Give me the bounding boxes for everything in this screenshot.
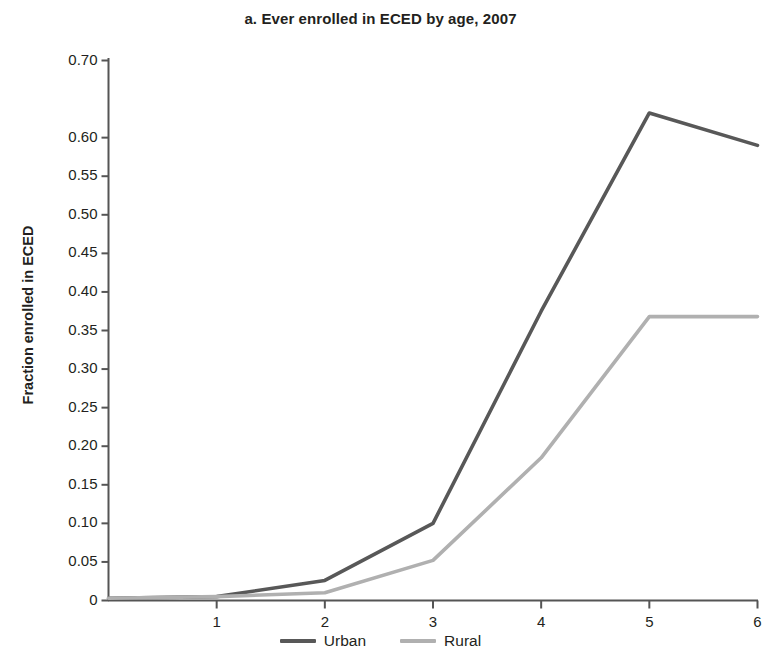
x-tick-label: 3 xyxy=(413,613,453,630)
y-tick-label: 0.15 xyxy=(40,475,98,492)
y-tick-marks xyxy=(102,61,109,601)
x-tick-label: 5 xyxy=(629,613,669,630)
x-tick-label: 4 xyxy=(521,613,561,630)
legend-swatch-urban xyxy=(280,639,316,643)
legend-item-urban: Urban xyxy=(280,632,366,650)
y-tick-label: 0.55 xyxy=(40,166,98,183)
series-line-rural xyxy=(109,317,758,599)
legend-label: Urban xyxy=(324,632,366,650)
y-tick-label: 0.45 xyxy=(40,243,98,260)
chart-legend: UrbanRural xyxy=(0,632,761,650)
x-tick-marks xyxy=(217,601,758,609)
axis-lines xyxy=(108,58,758,601)
y-tick-label: 0.35 xyxy=(40,321,98,338)
y-tick-label: 0.30 xyxy=(40,359,98,376)
y-tick-label: 0.70 xyxy=(40,51,98,68)
legend-label: Rural xyxy=(444,632,481,650)
series-line-urban xyxy=(109,113,758,598)
y-tick-label: 0.05 xyxy=(40,552,98,569)
y-tick-label: 0 xyxy=(40,591,98,608)
x-tick-label: 1 xyxy=(197,613,237,630)
y-tick-label: 0.50 xyxy=(40,205,98,222)
y-tick-label: 0.60 xyxy=(40,128,98,145)
series-lines xyxy=(109,113,758,598)
y-tick-label: 0.20 xyxy=(40,436,98,453)
y-tick-label: 0.40 xyxy=(40,282,98,299)
y-tick-label: 0.25 xyxy=(40,398,98,415)
y-tick-label: 0.10 xyxy=(40,513,98,530)
x-tick-label: 2 xyxy=(305,613,345,630)
legend-item-rural: Rural xyxy=(400,632,481,650)
x-tick-label: 6 xyxy=(738,613,766,630)
legend-swatch-rural xyxy=(400,639,436,643)
